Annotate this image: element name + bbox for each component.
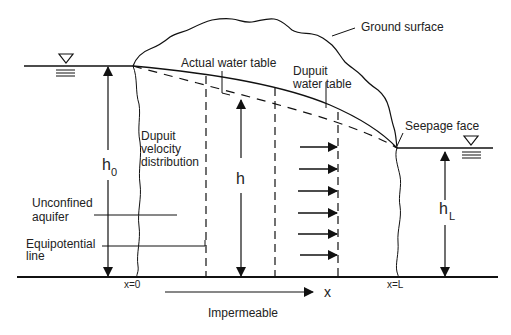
dupuit-velocity-label-3: distribution (141, 155, 199, 169)
ground-surface-label: Ground surface (361, 20, 444, 34)
h-label: h (236, 170, 245, 187)
hL-subscript: L (449, 210, 455, 222)
seepage-face-leader (397, 133, 403, 146)
x-origin-label: x=0 (124, 279, 141, 290)
right-boundary-wavy (396, 148, 401, 277)
ground-surface-leader (332, 28, 355, 36)
unconfined-aquifer-label-1: Unconfined (32, 196, 93, 210)
equipotential-line-leader (102, 240, 205, 246)
dupuit-velocity-label-1: Dupuit (141, 129, 176, 143)
dupuit-velocity-label-2: velocity (141, 142, 181, 156)
velocity-arrows (298, 147, 337, 255)
unconfined-aquifer-label-2: aquifer (32, 210, 69, 224)
dupuit-water-table-label-1: Dupuit (293, 64, 328, 78)
h0-subscript: 0 (111, 166, 117, 178)
dupuit-diagram: Ground surface Actual water table Dupuit… (0, 0, 511, 335)
h0-label: h (102, 156, 111, 173)
equipotential-line-label-2: line (26, 249, 45, 263)
x-end-label: x=L (387, 279, 404, 290)
dupuit-water-table-label-2: water table (292, 77, 352, 91)
water-level-icon-right (462, 136, 481, 158)
left-boundary-wavy (133, 66, 141, 277)
seepage-face-label: Seepage face (405, 119, 479, 133)
hL-label: h (439, 200, 448, 217)
impermeable-label: Impermeable (208, 306, 278, 320)
x-axis-label: x (324, 284, 331, 300)
water-level-icon-left (56, 54, 75, 76)
actual-water-table-label: Actual water table (181, 56, 277, 70)
